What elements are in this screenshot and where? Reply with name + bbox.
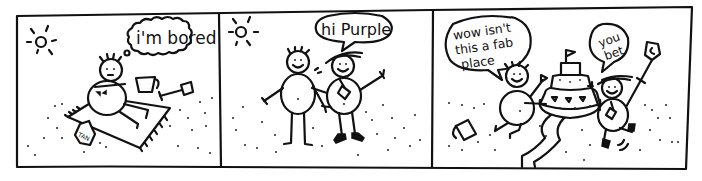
bucket-icon bbox=[136, 77, 159, 92]
figure-right-purple bbox=[312, 52, 384, 143]
sun-icon bbox=[27, 26, 56, 54]
thought-bubble: i'm bored bbox=[125, 17, 217, 56]
figure-left bbox=[262, 47, 329, 145]
panel-2: hi Purple bbox=[229, 13, 421, 156]
panel-1: i'm bored TAN bbox=[27, 17, 216, 156]
lying-figure: TAN bbox=[65, 54, 170, 151]
spade-icon bbox=[637, 42, 660, 83]
spade-icon bbox=[159, 82, 193, 100]
sun-icon bbox=[229, 17, 258, 45]
speech-bubble: hi Purple bbox=[316, 13, 392, 51]
panel-3: wow isn't this a fab place you bet bbox=[446, 16, 679, 167]
tan-lotion-bottle: TAN bbox=[75, 121, 95, 145]
comic-strip: i'm bored TAN bbox=[0, 0, 702, 181]
speech-text: hi Purple bbox=[321, 20, 391, 39]
speech-bubble-right: you bet bbox=[590, 24, 628, 72]
thought-text: i'm bored bbox=[136, 28, 216, 48]
bucket-icon bbox=[453, 120, 476, 140]
